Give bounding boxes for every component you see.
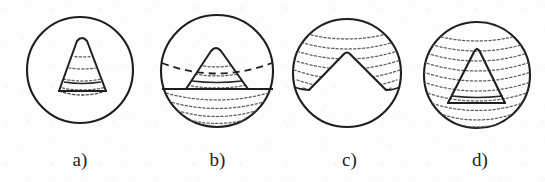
cone-inner-chord-b <box>192 81 242 83</box>
panel-d-diagram <box>415 0 545 140</box>
cone-inner-chord-a <box>64 82 101 84</box>
panel-label-b: b) <box>145 150 290 169</box>
lower-cap-hatch-b <box>162 92 272 128</box>
panel-a-diagram <box>0 0 160 140</box>
cone-outline-d <box>448 49 505 103</box>
notch-outline-c <box>309 53 386 91</box>
figure-root: a) <box>0 0 545 182</box>
circle-outline-a <box>27 17 133 123</box>
circle-outline-d <box>424 22 530 128</box>
panel-a: a) <box>0 0 160 182</box>
panel-c: c) <box>287 0 412 182</box>
cone-inner-chord-d <box>452 96 503 98</box>
panel-c-diagram <box>287 0 412 140</box>
panel-d: d) <box>415 0 545 182</box>
upper-band-hatch-c <box>293 30 401 96</box>
circle-outline-c <box>293 19 401 127</box>
panel-label-d: d) <box>415 150 545 169</box>
panel-label-c: c) <box>287 150 412 169</box>
dashed-equator-ellipse-b <box>162 63 272 74</box>
panel-b-diagram <box>145 0 290 140</box>
panel-label-a: a) <box>0 150 160 169</box>
panel-b: b) <box>145 0 290 182</box>
